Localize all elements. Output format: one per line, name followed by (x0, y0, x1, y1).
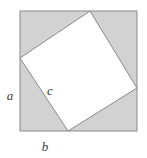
figure-container: a b c (0, 0, 147, 158)
side-label-b: b (42, 139, 49, 154)
pythagorean-diagram: a b c (0, 0, 147, 158)
side-label-c: c (47, 83, 53, 98)
side-label-a: a (7, 88, 14, 103)
